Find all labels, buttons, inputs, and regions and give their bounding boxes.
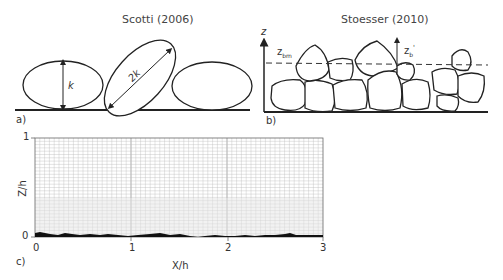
y-tick-0: 0 xyxy=(22,230,28,241)
plot-gradient xyxy=(35,198,323,237)
x-tick-0: 0 xyxy=(33,242,39,253)
x-tick-2: 2 xyxy=(225,242,231,253)
z-bm-label: zbm xyxy=(277,46,292,59)
k-label: k xyxy=(68,80,74,91)
ellipse-right xyxy=(172,62,252,110)
panel-b-title: Stoesser (2010) xyxy=(341,13,429,26)
panel-c-label: c) xyxy=(16,256,25,267)
panel-b-label: b) xyxy=(266,115,276,126)
grains xyxy=(271,41,484,112)
z-axis-label: z xyxy=(261,26,266,37)
x-tick-3: 3 xyxy=(320,242,326,253)
x-tick-1: 1 xyxy=(129,242,135,253)
panel-a-diagram xyxy=(0,0,503,280)
z-b-prime-label: zb' xyxy=(404,44,415,58)
y-axis-label: Z/h xyxy=(17,180,28,197)
x-axis-label: X/h xyxy=(172,260,189,271)
y-tick-1: 1 xyxy=(23,131,29,142)
panel-a-label: a) xyxy=(16,114,26,125)
